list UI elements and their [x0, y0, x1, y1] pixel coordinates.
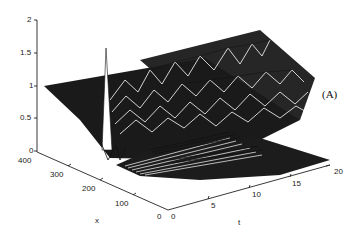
t-tick-label: 15: [292, 180, 301, 188]
x-tick-label: 100: [115, 200, 128, 208]
t-tick-label: 20: [334, 168, 343, 176]
x-tick-label: 0: [157, 213, 161, 221]
t-tick-label: 5: [211, 202, 215, 210]
x-tick-label: 300: [50, 171, 63, 179]
z-tick-label: 0: [29, 147, 33, 155]
z-tick-label: 2: [27, 16, 31, 24]
t-axis-title: t: [238, 218, 240, 227]
t-tick-label: 0: [171, 213, 175, 221]
z-tick-label: 1.5: [20, 49, 31, 57]
panel-label: (A): [322, 88, 337, 100]
x-tick-label: 400: [18, 157, 31, 165]
x-axis-title: x: [95, 216, 99, 225]
z-tick-label: 1: [29, 82, 33, 90]
plot-canvas: [0, 0, 360, 240]
z-tick-label: 0.5: [20, 114, 31, 122]
t-tick-label: 10: [252, 191, 261, 199]
x-tick-label: 200: [82, 185, 95, 193]
surface-plot: 2 1.5 1 0.5 0 400 300 200 100 0 0 5 10 1…: [0, 0, 360, 240]
